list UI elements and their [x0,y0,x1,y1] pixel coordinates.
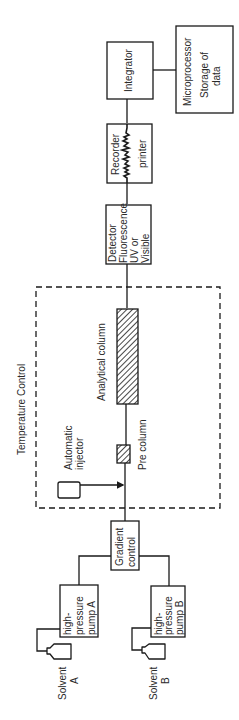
solvent-b: Solvent B [132,628,171,700]
analytical-column: Analytical column [96,309,138,404]
solvent-a-bottle-icon [47,644,71,659]
pump-a-line1: high- [62,613,73,635]
pump-b-line3: pump B [174,600,185,635]
solvent-a-label: Solvent [57,666,68,700]
integrator-label: Integrator [123,49,134,92]
pre-column-label: Pre column [137,419,148,470]
detector-label: Detector [107,224,118,262]
recorder-label: Recorder [110,133,121,175]
solvent-a-id: A [69,677,80,684]
integrator-box: Integrator [107,42,153,99]
detector-box: Detector Fluorescence UV or Visible [106,203,151,264]
recorder-box: Recorder printer [107,124,152,183]
pre-column: Pre column [117,419,148,470]
pump-b-line2: pressure [163,596,174,635]
solvent-b-bottle-icon [142,644,165,659]
hplc-diagram: Microprocessor Storage of data Integrato… [0,0,239,720]
pump-b-box: high- pressure pump B [151,586,185,637]
gradient-control-box: Gradient control [111,521,139,570]
detector-visible: Visible [140,233,151,263]
injector-label: Automatic [63,426,74,470]
control-label: control [126,537,137,567]
pump-a-line2: pressure [74,596,85,635]
pump-a-line3: pump A [86,601,97,635]
automatic-injector: Automatic injector [58,426,123,498]
temperature-control-label: Temperature Control [16,364,27,455]
solvent-b-id: B [160,677,171,684]
microprocessor-sub1: Storage of [199,52,210,98]
microprocessor-box: Microprocessor Storage of data [176,26,233,113]
pump-a-box: high- pressure pump A [60,585,98,637]
solvent-a: Solvent A [37,629,80,700]
detector-uv: UV or [129,237,140,263]
injector-sublabel: injector [74,437,85,470]
gradient-label: Gradient [114,527,125,566]
solvent-b-label: Solvent [148,666,159,700]
printer-label: printer [137,139,148,168]
detector-fluorescence: Fluorescence [118,203,129,263]
microprocessor-sub2: data [211,66,222,86]
analytical-column-label: Analytical column [96,323,107,401]
microprocessor-label: Microprocessor [182,37,193,106]
